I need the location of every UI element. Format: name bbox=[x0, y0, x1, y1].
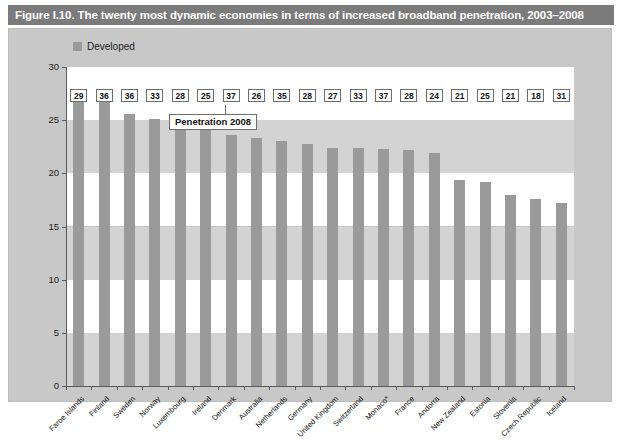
y-axis-tick bbox=[62, 280, 67, 281]
data-label-box: 37 bbox=[223, 89, 240, 102]
x-axis-tick bbox=[345, 386, 346, 390]
bar bbox=[403, 150, 414, 386]
bar bbox=[99, 96, 110, 386]
data-label-box: 24 bbox=[426, 89, 443, 102]
bar bbox=[454, 180, 465, 386]
x-axis-tick bbox=[396, 386, 397, 390]
data-label-box: 28 bbox=[172, 89, 189, 102]
figure-title-bar: Figure I.10. The twenty most dynamic eco… bbox=[8, 5, 614, 25]
data-label-box: 28 bbox=[400, 89, 417, 102]
x-axis-tick bbox=[142, 386, 143, 390]
data-label-box: 33 bbox=[146, 89, 163, 102]
grid-band bbox=[66, 227, 574, 280]
x-axis-tick bbox=[66, 386, 67, 390]
data-label-box: 27 bbox=[324, 89, 341, 102]
data-label-box: 36 bbox=[121, 89, 138, 102]
bar bbox=[378, 149, 389, 386]
chart-panel: Developed 051015202530 29363633282537263… bbox=[8, 28, 612, 402]
data-label-box: 35 bbox=[273, 89, 290, 102]
grid-band bbox=[66, 280, 574, 333]
y-axis-tick-label: 0 bbox=[31, 380, 59, 391]
x-axis-tick bbox=[574, 386, 575, 390]
bar bbox=[302, 144, 313, 386]
y-axis-tick-label: 25 bbox=[31, 114, 59, 125]
x-axis-tick bbox=[218, 386, 219, 390]
x-axis-tick bbox=[168, 386, 169, 390]
legend-swatch-icon bbox=[73, 42, 82, 51]
callout-penetration-2008: Penetration 2008 bbox=[169, 114, 257, 130]
data-label-box: 28 bbox=[299, 89, 316, 102]
x-axis-tick bbox=[193, 386, 194, 390]
bar bbox=[251, 138, 262, 386]
data-label-box: 31 bbox=[553, 89, 570, 102]
page-title: Figure I.10. The twenty most dynamic eco… bbox=[8, 9, 584, 21]
data-label-box: 18 bbox=[527, 89, 544, 102]
y-axis-tick-label: 15 bbox=[31, 221, 59, 232]
data-label-box: 21 bbox=[502, 89, 519, 102]
y-axis-tick-label: 30 bbox=[31, 61, 59, 72]
x-axis-tick bbox=[371, 386, 372, 390]
y-axis-tick bbox=[62, 333, 67, 334]
bar bbox=[505, 195, 516, 386]
y-axis-tick bbox=[62, 173, 67, 174]
grid-band bbox=[66, 120, 574, 173]
y-axis-tick bbox=[62, 67, 67, 68]
bar bbox=[149, 119, 160, 386]
legend-label: Developed bbox=[87, 41, 135, 52]
bar bbox=[226, 135, 237, 386]
x-axis-tick bbox=[269, 386, 270, 390]
data-label-box: 29 bbox=[70, 89, 87, 102]
data-label-box: 26 bbox=[248, 89, 265, 102]
bar bbox=[124, 114, 135, 386]
bar bbox=[200, 128, 211, 386]
bar bbox=[530, 199, 541, 386]
y-axis-tick-label: 5 bbox=[31, 327, 59, 338]
y-axis-tick-label: 20 bbox=[31, 167, 59, 178]
x-axis-tick bbox=[422, 386, 423, 390]
bar bbox=[327, 148, 338, 386]
y-axis-tick-label: 10 bbox=[31, 274, 59, 285]
bar bbox=[353, 148, 364, 386]
data-label-box: 36 bbox=[96, 89, 113, 102]
data-label-box: 25 bbox=[197, 89, 214, 102]
x-axis-tick bbox=[472, 386, 473, 390]
x-axis-tick bbox=[91, 386, 92, 390]
data-label-box: 21 bbox=[451, 89, 468, 102]
plot-area bbox=[66, 67, 574, 386]
bar bbox=[73, 96, 84, 386]
bar bbox=[429, 153, 440, 386]
data-label-box: 33 bbox=[350, 89, 367, 102]
bar bbox=[276, 141, 287, 386]
x-axis-tick bbox=[320, 386, 321, 390]
bar bbox=[480, 182, 491, 386]
y-axis-tick bbox=[62, 120, 67, 121]
data-label-box: 37 bbox=[375, 89, 392, 102]
bar bbox=[175, 121, 186, 386]
grid-band bbox=[66, 333, 574, 386]
grid-band bbox=[66, 67, 574, 120]
bar bbox=[556, 203, 567, 386]
chart-legend: Developed bbox=[73, 41, 135, 52]
x-axis-tick bbox=[117, 386, 118, 390]
x-axis-tick bbox=[549, 386, 550, 390]
data-label-box: 25 bbox=[477, 89, 494, 102]
x-axis-tick bbox=[498, 386, 499, 390]
x-axis-tick bbox=[244, 386, 245, 390]
y-axis-tick bbox=[62, 227, 67, 228]
x-axis-tick bbox=[295, 386, 296, 390]
grid-band bbox=[66, 173, 574, 226]
x-axis-tick bbox=[523, 386, 524, 390]
x-axis-tick bbox=[447, 386, 448, 390]
